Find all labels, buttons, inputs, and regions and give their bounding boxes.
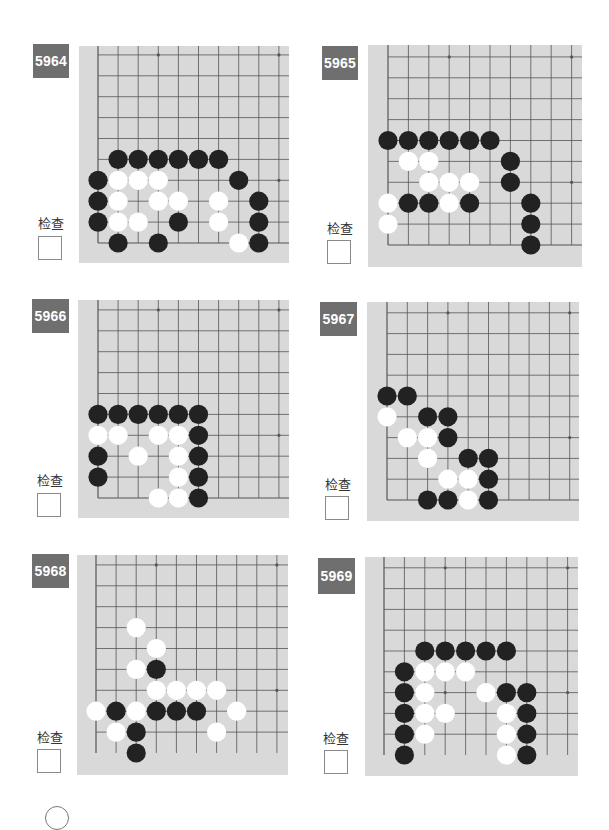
black-stone [517,704,536,723]
black-stone [436,641,455,660]
white-stone [169,447,188,466]
white-stone [169,426,188,445]
check-checkbox[interactable] [327,240,351,264]
white-stone [418,428,437,447]
black-stone [440,131,459,150]
black-stone [189,447,208,466]
white-stone [436,662,455,681]
white-stone [229,233,248,252]
check-checkbox[interactable] [324,750,348,774]
black-stone [109,233,128,252]
problem-number-badge: 5967 [320,302,357,336]
check-label: 检查 [320,474,356,493]
black-stone [438,490,457,509]
white-stone [436,704,455,723]
white-stone [398,428,417,447]
white-stone [438,470,457,489]
black-stone [521,194,540,213]
black-stone [377,386,396,405]
black-stone [460,131,479,150]
problem-number-badge: 5966 [32,299,69,333]
white-stone [167,681,186,700]
white-stone [378,194,397,213]
white-stone [187,681,206,700]
go-board [79,46,289,263]
white-stone [109,171,128,190]
check-label: 检查 [32,727,68,746]
white-stone [129,213,148,232]
black-stone [480,131,499,150]
black-stone [109,150,128,169]
white-stone [88,426,107,445]
star-point-icon [277,308,280,311]
black-stone [189,150,208,169]
white-stone [476,683,495,702]
white-stone [127,618,146,637]
white-stone [127,702,146,721]
black-stone [521,215,540,234]
black-stone [497,641,516,660]
black-stone [395,683,414,702]
white-stone [440,194,459,213]
check-checkbox[interactable] [37,493,61,517]
black-stone [399,194,418,213]
check-label: 检查 [32,470,68,489]
black-stone [517,683,536,702]
black-stone [229,171,248,190]
star-point-icon [570,181,573,184]
white-stone [209,192,228,211]
white-stone [129,447,148,466]
black-stone [88,468,107,487]
check-label: 检查 [322,218,358,237]
black-stone [249,213,268,232]
board-grid [365,557,578,776]
check-checkbox[interactable] [325,496,349,520]
white-stone [109,426,128,445]
star-point-icon [277,53,280,56]
white-stone [129,171,148,190]
star-point-icon [448,55,451,58]
go-board [365,557,578,776]
white-stone [109,192,128,211]
black-stone [479,449,498,468]
white-stone [415,725,434,744]
black-stone [129,405,148,424]
white-stone [419,173,438,192]
go-board [77,555,288,775]
star-point-icon [568,436,571,439]
white-stone [419,152,438,171]
check-label: 检查 [318,728,354,747]
go-board [78,300,289,518]
star-point-icon [275,689,278,692]
white-stone [209,213,228,232]
white-stone [415,683,434,702]
white-stone [207,723,226,742]
black-stone [497,683,516,702]
black-stone [395,745,414,764]
black-stone [418,490,437,509]
white-stone [440,173,459,192]
white-stone [460,173,479,192]
white-stone [149,488,168,507]
white-stone [459,470,478,489]
check-checkbox[interactable] [37,749,61,773]
check-checkbox[interactable] [38,236,62,260]
white-stone [169,192,188,211]
white-stone [147,639,166,658]
black-stone [517,745,536,764]
black-stone [129,150,148,169]
white-stone [169,468,188,487]
black-stone [459,449,478,468]
black-stone [398,386,417,405]
star-point-icon [566,566,569,569]
black-stone [149,233,168,252]
black-stone [456,641,475,660]
white-stone [207,681,226,700]
black-stone [395,725,414,744]
black-stone [107,702,126,721]
star-point-icon [277,179,280,182]
white-stone [456,662,475,681]
star-point-icon [157,308,160,311]
black-stone [88,192,107,211]
problem-number-badge: 5964 [33,44,69,78]
